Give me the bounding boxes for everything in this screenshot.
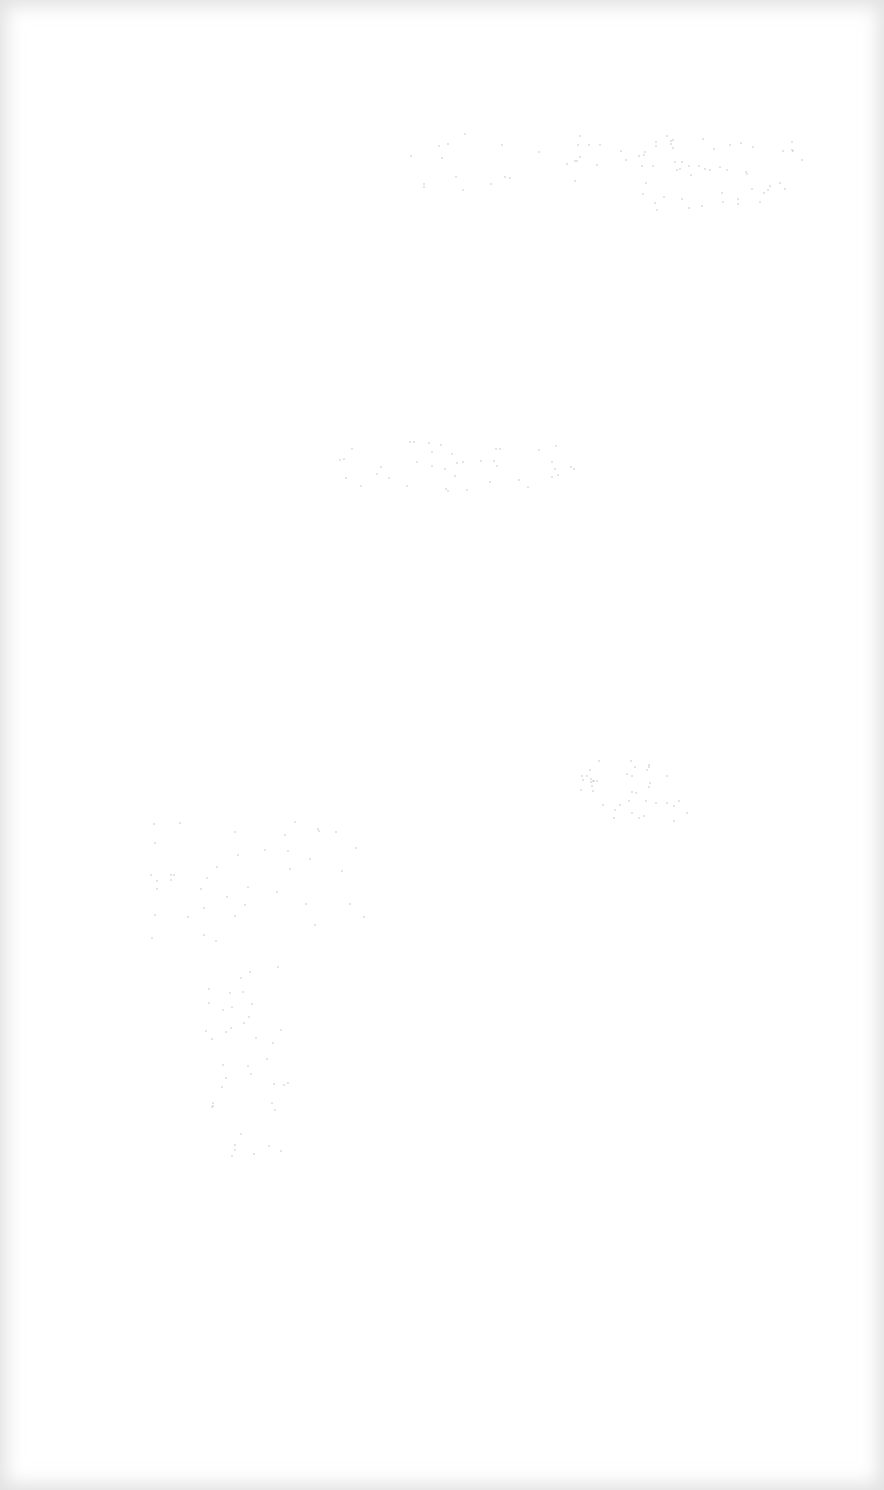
noise-speck (588, 144, 590, 146)
noise-speck (274, 1109, 276, 1111)
page-description: Blank, washed-out white page with faint … (0, 0, 1, 1)
noise-speck (280, 1029, 282, 1031)
noise-speck (648, 764, 650, 766)
noise-speck (740, 142, 742, 144)
noise-speck (648, 766, 650, 768)
noise-speck (656, 209, 658, 211)
noise-speck (631, 791, 633, 793)
noise-speck (170, 874, 172, 876)
noise-speck (440, 444, 442, 446)
noise-speck (704, 168, 706, 170)
noise-speck (221, 1086, 223, 1088)
noise-speck (234, 831, 236, 833)
noise-speck (240, 977, 242, 979)
noise-speck (596, 164, 598, 166)
noise-speck (509, 177, 511, 179)
noise-speck (187, 916, 189, 918)
noise-speck (253, 1153, 255, 1155)
noise-speck (287, 850, 289, 852)
noise-speck (283, 1084, 285, 1086)
noise-speck (566, 163, 568, 165)
noise-speck (580, 789, 582, 791)
noise-speck (592, 790, 594, 792)
noise-speck (305, 903, 307, 905)
noise-speck (341, 870, 343, 872)
noise-speck (208, 1002, 210, 1004)
noise-speck (551, 476, 553, 478)
noise-speck (626, 773, 628, 775)
noise-speck (598, 760, 600, 762)
noise-speck (630, 760, 632, 762)
noise-speck (277, 966, 279, 968)
noise-speck (752, 146, 754, 148)
noise-speck (294, 821, 296, 823)
noise-speck (150, 874, 152, 876)
noise-speck (726, 169, 728, 171)
noise-speck (215, 940, 217, 942)
noise-speck (264, 849, 266, 851)
noise-speck (170, 879, 172, 881)
noise-speck (592, 780, 594, 782)
noise-speck (719, 166, 721, 168)
noise-speck (454, 475, 456, 477)
noise-speck (538, 151, 540, 153)
noise-speck (590, 781, 592, 783)
noise-speck (222, 1064, 224, 1066)
noise-speck (208, 988, 210, 990)
noise-speck (573, 468, 575, 470)
noise-speck (451, 453, 453, 455)
noise-speck (499, 448, 501, 450)
noise-speck (247, 886, 249, 888)
noise-speck (212, 1102, 214, 1104)
noise-speck (345, 477, 347, 479)
noise-speck (721, 192, 723, 194)
noise-speck (351, 448, 353, 450)
noise-speck (289, 868, 291, 870)
noise-speck (203, 907, 205, 909)
noise-speck (579, 135, 581, 137)
noise-speck (363, 916, 365, 918)
noise-speck (154, 842, 156, 844)
noise-speck (702, 138, 704, 140)
noise-speck (273, 1083, 275, 1085)
noise-speck (759, 201, 761, 203)
noise-speck (237, 854, 239, 856)
noise-speck (410, 155, 412, 157)
noise-speck (645, 800, 647, 802)
noise-speck (746, 173, 748, 175)
noise-speck (729, 144, 731, 146)
noise-speck (234, 1144, 236, 1146)
noise-speck (557, 474, 559, 476)
noise-speck (462, 189, 464, 191)
noise-speck (663, 196, 665, 198)
noise-speck (644, 151, 646, 153)
noise-speck (231, 1006, 233, 1008)
noise-speck (635, 792, 637, 794)
noise-speck (784, 188, 786, 190)
noise-speck (480, 460, 482, 462)
noise-speck (205, 1030, 207, 1032)
noise-speck (211, 1106, 213, 1108)
noise-speck (518, 479, 520, 481)
noise-speck (690, 174, 692, 176)
noise-speck (688, 207, 690, 209)
noise-speck (156, 888, 158, 890)
noise-speck (599, 144, 601, 146)
noise-speck (713, 148, 715, 150)
noise-speck (620, 150, 622, 152)
noise-speck (216, 866, 218, 868)
noise-speck (581, 775, 583, 777)
noise-speck (586, 775, 588, 777)
noise-speck (652, 165, 654, 167)
noise-speck (642, 193, 644, 195)
noise-speck (388, 477, 390, 479)
noise-speck (613, 817, 615, 819)
noise-overlay (0, 0, 884, 1490)
noise-speck (251, 1003, 253, 1005)
noise-speck (504, 176, 506, 178)
noise-speck (318, 830, 320, 832)
noise-speck (314, 924, 316, 926)
noise-speck (538, 449, 540, 451)
noise-speck (582, 779, 584, 781)
noise-speck (782, 150, 784, 152)
